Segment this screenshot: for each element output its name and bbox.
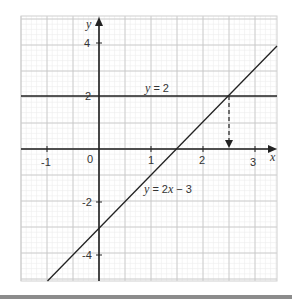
x-tick-label-2: 2 [199, 154, 205, 166]
y-tick-label-2: 2 [85, 90, 91, 102]
y-tick-label-neg2: -2 [82, 196, 92, 208]
graph: -1 0 1 2 3 4 2 -2 -4 y x y = 2 y = 2x − … [0, 0, 292, 299]
y-tick-label-4: 4 [84, 37, 90, 49]
x-tick-label-1: 1 [148, 154, 154, 166]
x-tick-label-3: 3 [250, 156, 256, 168]
bottom-separator [0, 295, 292, 299]
x-tick-label-neg1: -1 [41, 156, 51, 168]
x-axis-label: x [269, 150, 276, 164]
label-y-equals-2: y = 2 [144, 81, 169, 95]
y-axis-arrow-icon [95, 17, 103, 26]
y-tick-label-neg4: -4 [82, 249, 92, 261]
label-y-equals-2x-minus-3: y = 2x − 3 [143, 182, 192, 196]
x-tick-label-0: 0 [87, 153, 93, 165]
y-axis-label: y [85, 17, 92, 31]
